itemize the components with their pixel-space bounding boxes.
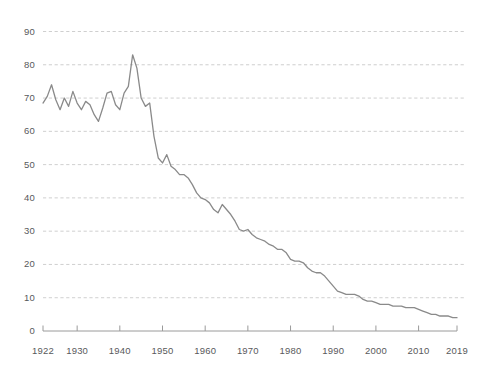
y-tick-label-10: 10	[7, 292, 35, 303]
y-tick-label-0: 0	[7, 325, 35, 336]
y-tick-label-20: 20	[7, 258, 35, 269]
y-tick-label-80: 80	[7, 59, 35, 70]
x-tick-marks	[43, 326, 457, 332]
x-tick-label-1990: 1990	[313, 345, 353, 356]
data-series	[43, 55, 457, 318]
gridlines	[43, 32, 465, 298]
y-tick-label-50: 50	[7, 159, 35, 170]
x-tick-label-1960: 1960	[185, 345, 225, 356]
y-tick-label-90: 90	[7, 26, 35, 37]
x-tick-label-1930: 1930	[57, 345, 97, 356]
y-tick-label-70: 70	[7, 92, 35, 103]
series-line-1	[43, 55, 457, 318]
x-tick-label-1950: 1950	[143, 345, 183, 356]
y-tick-label-60: 60	[7, 125, 35, 136]
x-tick-label-1940: 1940	[100, 345, 140, 356]
line-chart: 0102030405060708090 19221930194019501960…	[0, 0, 492, 381]
x-tick-label-1980: 1980	[271, 345, 311, 356]
x-tick-label-2010: 2010	[399, 345, 439, 356]
y-tick-label-30: 30	[7, 225, 35, 236]
x-tick-label-2019: 2019	[437, 345, 477, 356]
x-tick-label-2000: 2000	[356, 345, 396, 356]
y-tick-label-40: 40	[7, 192, 35, 203]
chart-plot-area	[0, 0, 492, 381]
x-tick-label-1970: 1970	[228, 345, 268, 356]
